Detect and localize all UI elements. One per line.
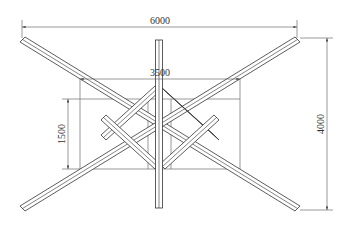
dimension-overall-height: 4000 [300,38,333,210]
vertical-center-post [156,40,163,208]
inner-brace-lower-left [101,115,160,169]
dimension-inner-width: 3500 [80,67,240,79]
dimension-inner-height: 1500 [56,99,68,169]
inner-brace-lower-right [160,115,219,169]
dimension-label-1500: 1500 [56,124,67,144]
dimension-label-3500: 3500 [150,67,170,78]
dimension-label-4000: 4000 [315,114,326,134]
technical-drawing: 6000 3500 1500 4000 [0,0,346,251]
dimension-label-6000: 6000 [150,15,170,26]
dimension-overall-width: 6000 [22,15,297,38]
